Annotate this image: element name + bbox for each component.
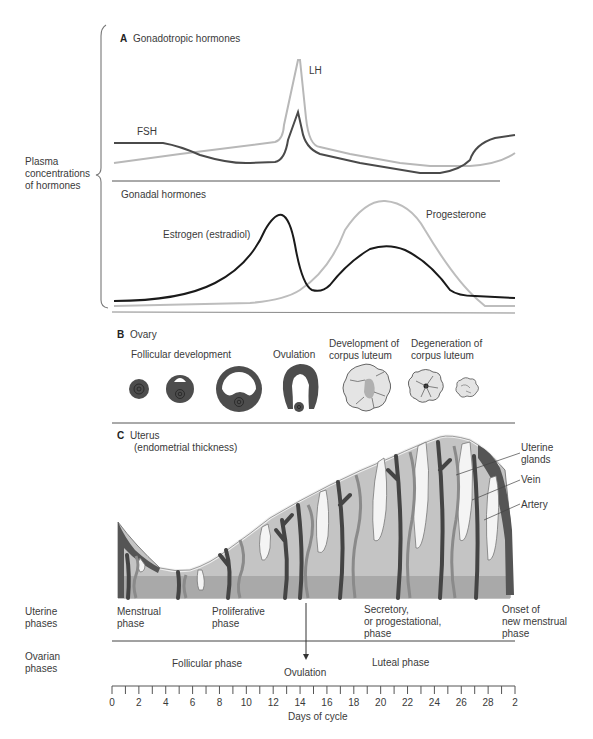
svg-text:Luteal phase: Luteal phase (372, 657, 430, 668)
svg-text:Development of: Development of (329, 338, 399, 349)
primary-follicle-icon (129, 379, 149, 399)
axis-tick-label: 22 (402, 697, 414, 708)
axis-tick-label: 24 (429, 697, 441, 708)
axis-tick-label: 2 (136, 697, 142, 708)
svg-text:Ovulation: Ovulation (273, 349, 315, 360)
svg-text:phase: phase (212, 618, 240, 629)
svg-text:Vein: Vein (521, 474, 540, 485)
svg-text:Follicular phase: Follicular phase (172, 658, 242, 669)
svg-text:Gonadotropic hormones: Gonadotropic hormones (133, 33, 240, 44)
svg-text:Uterine: Uterine (25, 606, 58, 617)
panel-a-gonadotropic: A Gonadotropic hormones FSH LH (112, 33, 515, 181)
axis-tick-label: 10 (241, 697, 253, 708)
panel-gonadal: Gonadal hormones Estrogen (estradiol) Pr… (112, 189, 515, 313)
svg-text:phase: phase (117, 618, 145, 629)
axis-tick-label: 4 (163, 697, 169, 708)
svg-text:Ovarian: Ovarian (25, 651, 60, 662)
svg-text:FSH: FSH (137, 126, 157, 137)
mature-follicle-icon (216, 366, 262, 412)
svg-text:Progesterone: Progesterone (426, 209, 486, 220)
svg-text:phase: phase (364, 628, 392, 639)
svg-text:concentrations: concentrations (25, 168, 90, 179)
axis-tick-label: 16 (321, 697, 333, 708)
svg-text:C: C (117, 430, 124, 441)
axis-tick-label: 18 (348, 697, 360, 708)
svg-text:LH: LH (309, 65, 322, 76)
estrogen-curve (114, 215, 515, 301)
days-axis: 02468101214161820222426282 Days of cycle (109, 686, 518, 722)
ovarian-phases-row: Ovarian phases Follicular phase Ovulatio… (25, 651, 430, 678)
panel-b-ovary: B Ovary Follicular development Ovulation… (112, 329, 515, 423)
svg-text:or progestational,: or progestational, (364, 616, 441, 627)
svg-text:phase: phase (502, 628, 530, 639)
ovulation-icon (283, 364, 319, 412)
menstrual-cycle-diagram: Plasma concentrations of hormones A Gona… (0, 0, 593, 739)
svg-text:of hormones: of hormones (25, 180, 81, 191)
svg-text:Ovary: Ovary (130, 329, 157, 340)
svg-text:Days of cycle: Days of cycle (288, 711, 348, 722)
svg-text:corpus luteum: corpus luteum (329, 350, 392, 361)
axis-tick-label: 26 (456, 697, 468, 708)
axis-tick-label: 6 (190, 697, 196, 708)
axis-tick-label: 12 (268, 697, 280, 708)
svg-text:B: B (117, 329, 124, 340)
axis-tick-label: 2 (512, 697, 518, 708)
svg-text:phases: phases (25, 663, 57, 674)
degenerating-corpus-luteum-icon (408, 370, 443, 403)
svg-text:Plasma: Plasma (25, 156, 59, 167)
svg-text:Onset of: Onset of (502, 604, 540, 615)
axis-tick-label: 8 (217, 697, 223, 708)
axis-tick-label: 0 (109, 697, 115, 708)
axis-tick-label: 28 (483, 697, 495, 708)
svg-text:glands: glands (521, 454, 550, 465)
panel-c-uterus: C Uterus (endometrial thickness) (117, 430, 554, 598)
svg-text:A: A (120, 33, 127, 44)
svg-text:Follicular development: Follicular development (131, 349, 231, 360)
svg-text:Secretory,: Secretory, (364, 604, 409, 615)
svg-text:Degeneration of: Degeneration of (411, 338, 482, 349)
svg-text:Gonadal hormones: Gonadal hormones (121, 189, 206, 200)
svg-text:Estrogen (estradiol): Estrogen (estradiol) (163, 229, 250, 240)
y-axis-bracket (96, 25, 108, 308)
svg-text:new menstrual: new menstrual (502, 616, 567, 627)
svg-text:Proliferative: Proliferative (212, 606, 265, 617)
svg-text:(endometrial thickness): (endometrial thickness) (134, 442, 237, 453)
svg-text:corpus luteum: corpus luteum (411, 350, 474, 361)
secondary-follicle-icon (166, 375, 194, 403)
svg-text:Menstrual: Menstrual (117, 606, 161, 617)
gonadal-baseline (112, 312, 515, 313)
svg-text:Ovulation: Ovulation (284, 667, 326, 678)
axis-tick-label: 14 (295, 697, 307, 708)
svg-text:Artery: Artery (521, 499, 548, 510)
axis-tick-label: 20 (375, 697, 387, 708)
corpus-luteum-icon (343, 364, 391, 411)
ovulation-arrow (303, 603, 309, 660)
svg-text:Uterus: Uterus (130, 430, 159, 441)
svg-text:Uterine: Uterine (521, 442, 554, 453)
corpus-albicans-icon (456, 378, 479, 397)
svg-text:phases: phases (25, 618, 57, 629)
uterine-phases-row: Uterine phases Menstrual phase Prolifera… (25, 604, 567, 641)
fsh-curve (114, 112, 515, 173)
y-axis-label: Plasma concentrations of hormones (25, 156, 90, 191)
